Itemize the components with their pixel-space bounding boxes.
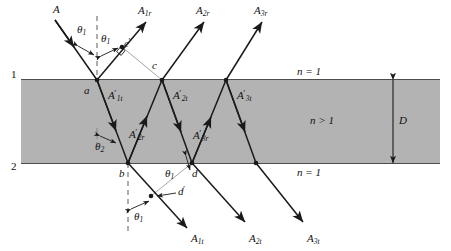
vertex-dot-d [190, 161, 195, 166]
point-label-c: c [152, 60, 157, 71]
medium-label-n-top: n = 1 [297, 66, 321, 77]
angle-label-theta2: θ2 [95, 141, 104, 152]
ray-label-A1t: A1t [191, 233, 204, 244]
angle-label-theta1-at-d: θ1 [165, 168, 174, 179]
angle-label-theta1-below-b: θ1 [134, 211, 143, 222]
angle-label-theta1-incident: θ1 [77, 24, 86, 35]
point-label-d: d [192, 168, 198, 179]
vertex-dot-a [95, 78, 100, 83]
ray-label-A3t: A3t [307, 233, 320, 244]
ray-label-A3t-prime: A′3t [237, 90, 252, 101]
vertex-dot-top-3 [224, 78, 229, 83]
ray-label-A2t: A2t [249, 233, 262, 244]
ray-label-A3r: A3r [254, 5, 267, 16]
point-label-b: b [119, 168, 125, 179]
diagram-canvas [0, 0, 451, 251]
angle-label-theta1-reflected: θ1 [101, 33, 110, 44]
medium-label-n-slab: n > 1 [310, 115, 334, 126]
angle-arrow-theta1-reflected [101, 48, 118, 56]
ray-label-A3r-prime: A′3r [193, 130, 208, 141]
ray-label-A2r: A2r [196, 5, 209, 16]
ray-transmitted-A3t [256, 163, 303, 222]
point-label-c-prime: c′ [124, 38, 131, 49]
ray-label-A1r: A1r [138, 5, 151, 16]
figure-ray-diagram-slab: 1 2 A A1r A2r A3r A1t A2t A3t A′1t A′2r … [0, 0, 451, 251]
vertex-dot-c [160, 78, 165, 83]
ray-reflected-A1r [97, 22, 146, 80]
ray-reflected-A2r [162, 22, 204, 80]
pointer-to-dprime [157, 193, 176, 196]
medium-label-n-bottom: n = 1 [297, 167, 321, 178]
interface-1-label: 1 [11, 69, 17, 80]
point-label-d-prime: d′ [178, 186, 185, 197]
vertex-dot-dprime [149, 194, 154, 199]
dimension-label-D: D [399, 115, 407, 126]
ray-reflected-A3r [226, 22, 262, 80]
ray-label-A2t-prime: A′2t [173, 90, 188, 101]
vertex-dot-bottom-3 [254, 161, 259, 166]
angle-arrow-theta1-incident [78, 46, 94, 55]
vertex-dot-b [126, 161, 131, 166]
ray-label-A: A [53, 4, 60, 15]
angle-arrow-theta1-below-b [131, 201, 149, 209]
ray-incident-A-arrow [55, 20, 74, 47]
interface-2-label: 2 [11, 161, 17, 172]
ray-transmitted-A2t [192, 163, 245, 222]
ray-label-A1t-prime: A′1t [108, 90, 123, 101]
ray-label-A2r-prime: A′2r [129, 129, 144, 140]
point-label-a: a [84, 85, 90, 96]
